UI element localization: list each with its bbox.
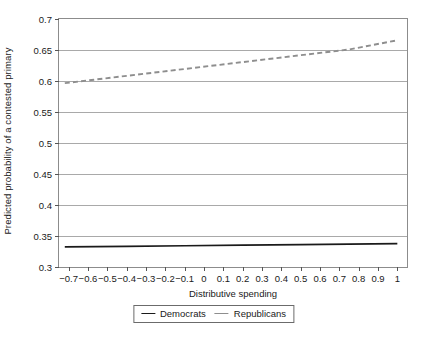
legend-label-democrats: Democrats xyxy=(160,308,206,319)
x-axis-tick xyxy=(243,267,244,271)
legend-item-republicans[interactable]: Republicans xyxy=(215,308,286,319)
y-axis-tick xyxy=(55,112,59,113)
y-axis-tick-label: 0.7 xyxy=(39,14,52,25)
series-line-republicans xyxy=(65,40,398,83)
x-axis-tick xyxy=(88,267,89,271)
x-axis-tick-label: −0.5 xyxy=(98,273,117,284)
series-line-democrats xyxy=(65,244,398,247)
legend-swatch-democrats-icon xyxy=(141,313,155,314)
x-axis-tick-label: −0.1 xyxy=(175,273,194,284)
chart-legend: Democrats Republicans xyxy=(133,305,294,323)
y-axis-tick xyxy=(55,81,59,82)
x-axis-tick-label: 0 xyxy=(201,273,206,284)
x-axis-tick-label: 0.9 xyxy=(371,273,384,284)
x-axis-tick xyxy=(204,267,205,271)
x-axis-tick xyxy=(262,267,263,271)
y-axis-tick xyxy=(55,143,59,144)
x-axis-tick-label: 0.1 xyxy=(217,273,230,284)
x-axis-tick-label: −0.3 xyxy=(137,273,156,284)
y-axis-tick-label: 0.5 xyxy=(39,138,52,149)
y-axis-tick-label: 0.35 xyxy=(34,231,53,242)
x-axis-tick xyxy=(223,267,224,271)
x-axis-tick-label: 0.4 xyxy=(275,273,288,284)
y-axis-tick-label: 0.3 xyxy=(39,262,52,273)
x-axis-tick xyxy=(107,267,108,271)
y-axis-tick xyxy=(55,205,59,206)
x-axis-tick-label: 1 xyxy=(395,273,400,284)
y-axis-tick-label: 0.45 xyxy=(34,169,53,180)
x-axis-tick-label: −0.4 xyxy=(117,273,136,284)
y-axis-tick-label: 0.6 xyxy=(39,76,52,87)
y-axis-tick xyxy=(55,174,59,175)
y-axis-tick xyxy=(55,19,59,20)
x-axis-tick-label: −0.6 xyxy=(79,273,98,284)
x-axis-tick-label: 0.5 xyxy=(294,273,307,284)
y-axis-tick-label: 0.55 xyxy=(34,107,53,118)
y-axis-tick xyxy=(55,50,59,51)
legend-label-republicans: Republicans xyxy=(234,308,286,319)
legend-swatch-republicans-icon xyxy=(215,313,229,314)
y-axis-tick-label: 0.4 xyxy=(39,200,52,211)
x-axis-tick xyxy=(146,267,147,271)
x-axis-tick xyxy=(397,267,398,271)
x-axis-tick-label: −0.2 xyxy=(156,273,175,284)
x-axis-tick xyxy=(165,267,166,271)
x-axis-tick xyxy=(281,267,282,271)
y-axis-tick-label: 0.65 xyxy=(34,45,53,56)
x-axis-tick xyxy=(378,267,379,271)
x-axis-tick xyxy=(127,267,128,271)
y-axis-tick xyxy=(55,267,59,268)
x-axis-tick xyxy=(359,267,360,271)
plot-area: 0.30.350.40.450.50.550.60.650.7−0.7−0.6−… xyxy=(58,18,408,268)
legend-item-democrats[interactable]: Democrats xyxy=(141,308,206,319)
x-axis-tick xyxy=(320,267,321,271)
x-axis-tick-label: −0.7 xyxy=(59,273,78,284)
x-axis-tick-label: 0.8 xyxy=(352,273,365,284)
x-axis-tick xyxy=(69,267,70,271)
x-axis-tick-label: 0.3 xyxy=(255,273,268,284)
x-axis-tick xyxy=(339,267,340,271)
y-axis-title: Predicted probability of a contested pri… xyxy=(2,1,18,281)
x-axis-tick xyxy=(185,267,186,271)
x-axis-tick-label: 0.2 xyxy=(236,273,249,284)
x-axis-tick-label: 0.6 xyxy=(313,273,326,284)
data-lines xyxy=(59,19,407,267)
x-axis-tick-label: 0.7 xyxy=(333,273,346,284)
chart-figure: Predicted probability of a contested pri… xyxy=(0,0,427,338)
x-axis-tick xyxy=(301,267,302,271)
x-axis-title: Distributive spending xyxy=(58,288,408,299)
y-axis-tick xyxy=(55,236,59,237)
